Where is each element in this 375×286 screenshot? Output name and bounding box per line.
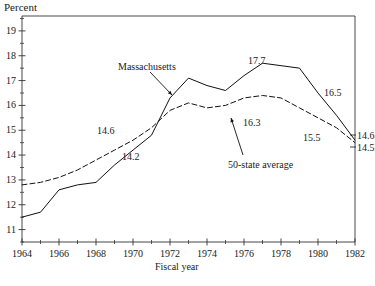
x-tick-label: 1978: [264, 249, 298, 259]
series-annotation-label: Massachusetts: [118, 62, 176, 72]
x-tick-label: 1970: [116, 249, 150, 259]
x-tick-label: 1972: [153, 249, 187, 259]
series-annotation-label: 50-state average: [228, 160, 293, 170]
x-tick-label: 1974: [190, 249, 224, 259]
x-tick-label: 1980: [301, 249, 335, 259]
y-tick-label: 12: [0, 200, 16, 210]
y-tick-label: 17: [0, 76, 16, 86]
data-value-label: 16.5: [324, 88, 342, 98]
x-axis-title: Fiscal year: [155, 262, 199, 272]
axis-frame: [22, 16, 355, 242]
y-tick-label: 16: [0, 100, 16, 110]
y-tick-label: 13: [0, 175, 16, 185]
annotation-arrows: [150, 72, 356, 155]
data-value-label: 17.7: [248, 56, 266, 66]
x-tick-label: 1966: [42, 249, 76, 259]
chart-figure: Percent 191817161514131211 1964196619681…: [0, 0, 375, 286]
data-value-label: 16.3: [243, 118, 261, 128]
y-tick-label: 19: [0, 26, 16, 36]
x-tick-label: 1968: [79, 249, 113, 259]
plot-area: [0, 0, 375, 286]
data-value-label: 15.5: [303, 133, 321, 143]
y-tick-label: 11: [0, 225, 16, 235]
data-value-label: 14.6: [357, 131, 375, 141]
y-tick-label: 15: [0, 125, 16, 135]
y-tick-label: 18: [0, 51, 16, 61]
x-tick-label: 1964: [5, 249, 39, 259]
x-tick-label: 1982: [338, 249, 372, 259]
x-tick-label: 1976: [227, 249, 261, 259]
data-value-label: 14.2: [122, 152, 140, 162]
data-value-label: 14.5: [357, 143, 375, 153]
y-tick-label: 14: [0, 150, 16, 160]
data-value-label: 14.6: [97, 126, 115, 136]
